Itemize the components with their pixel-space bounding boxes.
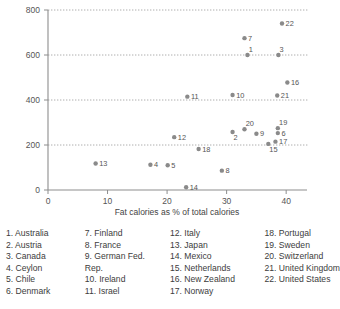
legend-entry: 6. Denmark: [6, 286, 85, 298]
legend-entry: 13. Japan: [170, 240, 265, 252]
legend-column-2: 7. Finland8. France9. German Fed.Rep.10.…: [85, 228, 170, 309]
legend-entry: 22. United States: [265, 274, 340, 286]
data-point-label-22: 22: [286, 19, 294, 28]
x-tick-label-20: 20: [162, 196, 172, 206]
data-point-label-13: 13: [99, 159, 107, 168]
data-point-22: [280, 21, 284, 25]
data-point-11: [185, 94, 189, 98]
data-point-7: [242, 36, 246, 40]
legend-entry: 14. Mexico: [170, 251, 265, 263]
legend-entry: 19. Sweden: [265, 240, 340, 252]
legend-entry: 9. German Fed.: [85, 251, 170, 263]
data-point-label-10: 10: [236, 91, 244, 100]
data-point-label-9: 9: [260, 129, 264, 138]
data-point-label-12: 12: [178, 133, 186, 142]
data-point-9: [254, 132, 258, 136]
data-point-4: [148, 163, 152, 167]
x-tick-label-40: 40: [281, 196, 291, 206]
scatter-plot-svg: 0200400600800 010203040 1234567891011121…: [0, 0, 340, 222]
scatter-chart-figure: 0200400600800 010203040 1234567891011121…: [0, 0, 340, 222]
y-tick-label-600: 600: [26, 50, 40, 60]
data-point-label-21: 21: [281, 91, 289, 100]
data-point-10: [230, 93, 234, 97]
x-tick-label-10: 10: [103, 196, 113, 206]
legend-entry: 4. Ceylon: [6, 263, 85, 275]
legend-entry: 7. Finland: [85, 228, 170, 240]
legend-entry: 10. Ireland: [85, 274, 170, 286]
data-point-5: [165, 163, 169, 167]
y-tick-label-0: 0: [35, 185, 40, 195]
data-point-label-15: 15: [269, 145, 277, 154]
legend-entry: 15. Netherlands: [170, 263, 265, 275]
legend-entry: 12. Italy: [170, 228, 265, 240]
data-point-21: [275, 93, 279, 97]
legend-entry: 17. Norway: [170, 286, 265, 298]
data-point-label-4: 4: [154, 160, 158, 169]
data-point-label-18: 18: [202, 145, 210, 154]
data-point-label-11: 11: [191, 92, 199, 101]
x-tick-label-30: 30: [222, 196, 232, 206]
legend-entry: 2. Austria: [6, 240, 85, 252]
legend-column-1: 1. Australia2. Austria3. Canada4. Ceylon…: [6, 228, 85, 309]
data-point-18: [196, 147, 200, 151]
country-legend: 1. Australia2. Austria3. Canada4. Ceylon…: [0, 228, 340, 309]
legend-entry: 5. Chile: [6, 274, 85, 286]
data-point-12: [172, 135, 176, 139]
data-point-label-19: 19: [279, 118, 287, 127]
legend-entry: 11. Israel: [85, 286, 170, 298]
data-point-6: [276, 131, 280, 135]
data-point-label-17: 17: [279, 137, 287, 146]
legend-entry: 21. United Kingdom: [265, 263, 340, 275]
legend-column-4: 18. Portugal19. Sweden20. Switzerland21.…: [265, 228, 340, 309]
data-point-14: [184, 185, 188, 189]
y-tick-label-200: 200: [26, 140, 40, 150]
data-points-group: 12345678910111213141516171819202122: [93, 19, 299, 192]
legend-column-3: 12. Italy13. Japan14. Mexico15. Netherla…: [170, 228, 265, 309]
legend-entry: 8. France: [85, 240, 170, 252]
x-tick-label-0: 0: [46, 196, 51, 206]
x-axis-title: Fat calories as % of total calories: [115, 207, 240, 217]
legend-entry: 1. Australia: [6, 228, 85, 240]
data-point-16: [285, 80, 289, 84]
data-point-17: [273, 139, 277, 143]
data-point-label-7: 7: [248, 34, 252, 43]
data-point-label-14: 14: [190, 183, 198, 192]
data-point-label-16: 16: [291, 78, 299, 87]
data-point-label-3: 3: [280, 45, 284, 54]
legend-entry: 18. Portugal: [265, 228, 340, 240]
data-point-label-8: 8: [225, 166, 229, 175]
legend-entry: 3. Canada: [6, 251, 85, 263]
x-axis-ticks: 010203040: [46, 190, 292, 206]
legend-entry: Rep.: [85, 263, 170, 275]
legend-entry: 16. New Zealand: [170, 274, 265, 286]
y-tick-label-800: 800: [26, 5, 40, 15]
data-point-8: [220, 168, 224, 172]
data-point-label-2: 2: [234, 133, 238, 142]
legend-entry: 20. Switzerland: [265, 251, 340, 263]
data-point-label-1: 1: [249, 45, 253, 54]
y-axis-ticks: 0200400600800: [26, 5, 48, 195]
data-point-13: [93, 161, 97, 165]
data-point-label-20: 20: [246, 119, 254, 128]
data-point-label-5: 5: [171, 161, 175, 170]
gridlines-group: [48, 10, 308, 145]
y-tick-label-400: 400: [26, 95, 40, 105]
